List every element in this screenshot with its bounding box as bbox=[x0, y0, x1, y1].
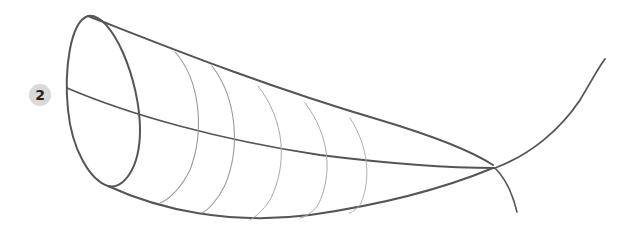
contour-arc-3 bbox=[250, 86, 281, 220]
ellipse-opening bbox=[67, 16, 140, 187]
tail-curve bbox=[495, 168, 517, 212]
contour-arc-1 bbox=[160, 52, 198, 203]
cone-sketch-drawing bbox=[0, 0, 620, 233]
bottom-contour bbox=[108, 168, 493, 218]
top-contour bbox=[88, 16, 493, 165]
contour-arc-2 bbox=[202, 66, 234, 213]
right-curve bbox=[495, 59, 605, 168]
sketch-canvas: 2 bbox=[0, 0, 620, 233]
contour-arc-4 bbox=[300, 103, 327, 218]
contour-arc-5 bbox=[349, 118, 367, 213]
